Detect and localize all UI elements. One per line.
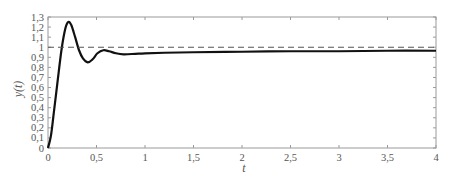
y-tick-label: 0,5: [31, 92, 44, 103]
y-tick-label: 0,4: [31, 102, 45, 113]
y-tick-label: 0,8: [31, 62, 44, 73]
response-curve: [48, 22, 436, 148]
x-tick-label: 1: [142, 152, 147, 163]
y-tick-label: 0,2: [31, 122, 44, 133]
x-tick-label: 2,5: [284, 152, 297, 163]
x-tick-label: 3,5: [381, 152, 394, 163]
x-tick-label: 4: [433, 152, 439, 163]
x-tick-label: 0: [45, 152, 50, 163]
y-tick-label: 0,3: [31, 112, 44, 123]
y-tick-label: 0,9: [31, 52, 44, 63]
y-tick-label: 0,6: [31, 82, 44, 93]
y-axis-ticks: 00,10,20,30,40,50,60,70,80,911,11,21,3: [31, 12, 436, 154]
y-tick-label: 0,1: [31, 132, 44, 143]
step-response-chart: 00,511,522,533,54 00,10,20,30,40,50,60,7…: [0, 0, 451, 182]
x-tick-label: 1,5: [187, 152, 200, 163]
x-tick-label: 3: [336, 152, 341, 163]
x-axis-ticks: 00,511,522,533,54: [45, 17, 439, 163]
y-tick-label: 1: [39, 42, 44, 53]
y-tick-label: 1,1: [31, 32, 44, 43]
y-axis-label: y(t): [11, 81, 25, 99]
y-tick-label: 0,7: [31, 72, 44, 83]
y-tick-label: 1,2: [31, 22, 44, 33]
y-tick-label: 1,3: [31, 12, 44, 23]
x-axis-label: t: [242, 161, 246, 175]
y-tick-label: 0: [39, 143, 44, 154]
plot-series: [48, 22, 436, 148]
x-tick-label: 0,5: [90, 152, 103, 163]
plot-area: [48, 17, 436, 148]
